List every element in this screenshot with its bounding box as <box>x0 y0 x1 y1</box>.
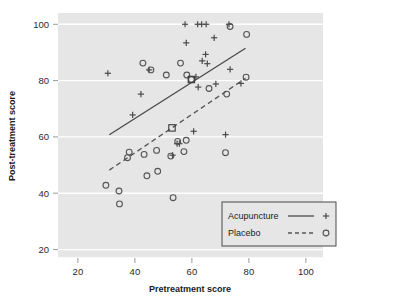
y-tick-label-80: 80 <box>38 75 49 86</box>
legend[interactable]: AcupuncturePlacebo <box>222 202 336 246</box>
x-tick-label-100: 100 <box>298 266 314 277</box>
x-tick-label-60: 60 <box>187 266 198 277</box>
legend-label-acupuncture[interactable]: Acupuncture <box>228 211 279 221</box>
y-axis-label: Post-treatment score <box>7 91 17 181</box>
y-tick-label-20: 20 <box>38 244 49 255</box>
x-axis-label: Pretreatment score <box>149 284 231 294</box>
x-tick-label-20: 20 <box>73 266 84 277</box>
x-tick-label-80: 80 <box>244 266 255 277</box>
y-axis-ticks: 20406080100 <box>33 19 58 255</box>
legend-box <box>222 202 336 246</box>
y-tick-label-40: 40 <box>38 188 49 199</box>
legend-label-placebo[interactable]: Placebo <box>228 228 261 238</box>
x-tick-label-40: 40 <box>130 266 141 277</box>
y-tick-label-60: 60 <box>38 131 49 142</box>
y-tick-label-100: 100 <box>33 19 49 30</box>
x-axis-ticks: 20406080100 <box>73 258 314 277</box>
scatter-chart: 20406080100 20406080100 Pretreatment sco… <box>0 0 394 307</box>
